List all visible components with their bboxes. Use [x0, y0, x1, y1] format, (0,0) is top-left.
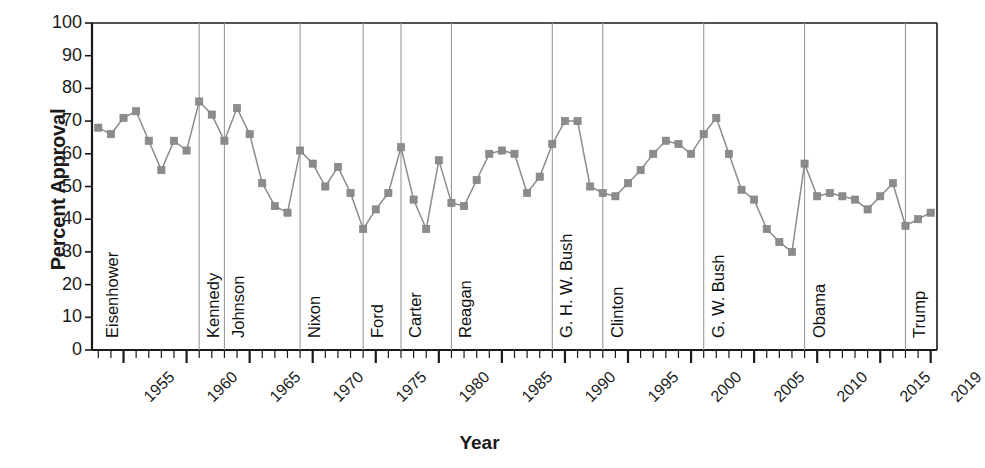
- data-point-marker: [599, 189, 606, 196]
- data-point-marker: [524, 189, 531, 196]
- data-point-marker: [776, 238, 783, 245]
- y-tick-label: 20: [36, 274, 82, 295]
- y-tick-label: 70: [36, 110, 82, 131]
- data-point-marker: [309, 160, 316, 167]
- data-point-marker: [511, 150, 518, 157]
- president-label-kennedy: Kennedy: [204, 273, 223, 338]
- data-point-marker: [536, 173, 543, 180]
- y-tick-label: 100: [36, 12, 82, 33]
- data-point-marker: [826, 189, 833, 196]
- data-point-marker: [410, 196, 417, 203]
- president-label-eisenhower: Eisenhower: [103, 252, 122, 338]
- data-point-marker: [120, 114, 127, 121]
- data-point-marker: [574, 118, 581, 125]
- data-point-marker: [196, 98, 203, 105]
- president-label-carter: Carter: [406, 292, 425, 338]
- data-point-marker: [423, 225, 430, 232]
- data-point-marker: [801, 160, 808, 167]
- data-point-marker: [927, 209, 934, 216]
- president-label-johnson: Johnson: [229, 276, 248, 338]
- y-tick-label: 90: [36, 45, 82, 66]
- data-point-marker: [347, 189, 354, 196]
- data-point-marker: [763, 225, 770, 232]
- data-point-marker: [738, 186, 745, 193]
- data-point-marker: [725, 150, 732, 157]
- data-point-marker: [183, 147, 190, 154]
- president-label-reagan: Reagan: [456, 280, 475, 338]
- data-point-marker: [612, 193, 619, 200]
- president-label-obama: Obama: [810, 284, 829, 338]
- data-point-marker: [751, 196, 758, 203]
- data-point-marker: [675, 140, 682, 147]
- data-point-marker: [637, 167, 644, 174]
- data-point-marker: [851, 196, 858, 203]
- president-label-clinton: Clinton: [608, 287, 627, 338]
- data-point-marker: [233, 104, 240, 111]
- data-point-marker: [687, 150, 694, 157]
- data-point-marker: [322, 183, 329, 190]
- data-point-marker: [662, 137, 669, 144]
- data-point-marker: [788, 248, 795, 255]
- data-point-marker: [360, 225, 367, 232]
- data-point-marker: [713, 114, 720, 121]
- data-point-marker: [448, 199, 455, 206]
- data-point-marker: [561, 118, 568, 125]
- data-point-marker: [397, 144, 404, 151]
- data-point-marker: [385, 189, 392, 196]
- data-point-marker: [259, 180, 266, 187]
- data-point-marker: [486, 150, 493, 157]
- data-point-marker: [624, 180, 631, 187]
- data-point-marker: [650, 150, 657, 157]
- series-line-percent-approval: [98, 101, 930, 251]
- data-point-marker: [435, 157, 442, 164]
- data-point-marker: [372, 206, 379, 213]
- data-point-marker: [877, 193, 884, 200]
- data-point-marker: [271, 203, 278, 210]
- y-tick-label: 80: [36, 77, 82, 98]
- data-point-marker: [889, 180, 896, 187]
- president-label-g-h-w-bush: G. H. W. Bush: [557, 233, 576, 338]
- data-point-marker: [145, 137, 152, 144]
- data-point-marker: [133, 108, 140, 115]
- data-point-marker: [498, 147, 505, 154]
- data-point-marker: [814, 193, 821, 200]
- president-label-g-w-bush: G. W. Bush: [709, 255, 728, 338]
- data-point-marker: [864, 206, 871, 213]
- data-point-marker: [95, 124, 102, 131]
- data-point-marker: [221, 137, 228, 144]
- data-point-marker: [158, 167, 165, 174]
- data-point-marker: [839, 193, 846, 200]
- president-label-trump: Trump: [910, 291, 929, 338]
- data-point-marker: [208, 111, 215, 118]
- data-point-marker: [284, 209, 291, 216]
- data-point-marker: [902, 222, 909, 229]
- data-point-marker: [914, 216, 921, 223]
- data-point-marker: [700, 131, 707, 138]
- data-point-marker: [246, 131, 253, 138]
- data-point-marker: [297, 147, 304, 154]
- x-axis-title: Year: [0, 432, 959, 454]
- data-point-marker: [107, 131, 114, 138]
- y-tick-label: 60: [36, 143, 82, 164]
- data-point-marker: [587, 183, 594, 190]
- y-tick-label: 0: [36, 339, 82, 360]
- data-point-marker: [170, 137, 177, 144]
- data-point-marker: [334, 163, 341, 170]
- president-label-ford: Ford: [368, 304, 387, 338]
- data-point-marker: [460, 203, 467, 210]
- data-point-marker: [473, 176, 480, 183]
- y-tick-label: 30: [36, 241, 82, 262]
- y-tick-label: 10: [36, 306, 82, 327]
- president-label-nixon: Nixon: [305, 296, 324, 338]
- y-tick-label: 50: [36, 176, 82, 197]
- data-point-marker: [549, 140, 556, 147]
- y-tick-label: 40: [36, 208, 82, 229]
